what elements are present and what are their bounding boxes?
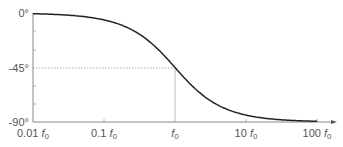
x-label-001: 0.01 f0	[17, 127, 50, 141]
x-label-01: 0.1 f0	[91, 127, 117, 141]
x-label-f0: f0	[171, 127, 179, 141]
y-label-0: 0°	[18, 7, 29, 19]
x-axis-arrow	[331, 120, 337, 124]
y-label-45: -45°	[9, 62, 29, 74]
x-label-100: 100 f0	[303, 127, 332, 141]
x-label-10: 10 f0	[235, 127, 258, 141]
phase-chart: 0° -45° -90° 0.01 f0 0.1 f0 f0 10 f0 100…	[0, 0, 343, 147]
